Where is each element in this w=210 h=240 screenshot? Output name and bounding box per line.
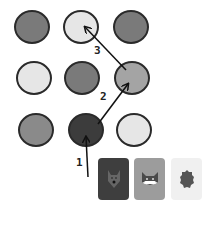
card-cat[interactable] (134, 158, 165, 200)
step-label-3: 3 (94, 44, 101, 57)
step-label-2: 2 (100, 90, 107, 103)
card-hedgehog[interactable] (171, 158, 202, 200)
arrow-step-3 (85, 27, 126, 70)
arrow-step-1 (86, 137, 88, 177)
step-label-1: 1 (76, 156, 83, 169)
wolf-icon (106, 169, 122, 189)
hedgehog-icon (179, 169, 195, 189)
cat-face-icon (140, 170, 160, 188)
card-wolf[interactable] (98, 158, 129, 200)
